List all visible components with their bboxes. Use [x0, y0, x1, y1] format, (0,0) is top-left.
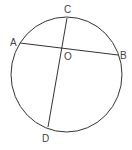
label-a: A — [10, 37, 17, 48]
circle-chord-diagram: A B C D O — [0, 0, 132, 150]
label-b: B — [120, 50, 127, 61]
label-c: C — [64, 4, 71, 15]
circle — [11, 17, 122, 132]
label-o: O — [64, 51, 72, 62]
label-d: D — [42, 133, 49, 144]
chord-cd — [48, 18, 67, 127]
